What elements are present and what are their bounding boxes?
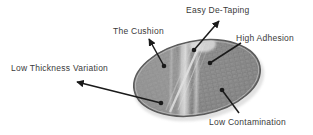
leader-low-contamination bbox=[220, 88, 239, 113]
wafer-feature-callout-figure: Easy De-Taping The Cushion High Adhesion… bbox=[0, 0, 313, 135]
leader-easy-de-taping bbox=[192, 21, 219, 52]
callout-label-easy-de-taping: Easy De-Taping bbox=[186, 5, 250, 15]
callout-label-low-thickness-variation: Low Thickness Variation bbox=[11, 63, 108, 73]
callout-label-low-contamination: Low Contamination bbox=[209, 117, 286, 127]
callout-label-high-adhesion: High Adhesion bbox=[236, 33, 294, 43]
leader-low-thickness-variation bbox=[77, 82, 163, 105]
leader-high-adhesion bbox=[208, 43, 241, 65]
callout-label-the-cushion: The Cushion bbox=[113, 26, 164, 36]
leader-the-cushion bbox=[149, 39, 166, 68]
